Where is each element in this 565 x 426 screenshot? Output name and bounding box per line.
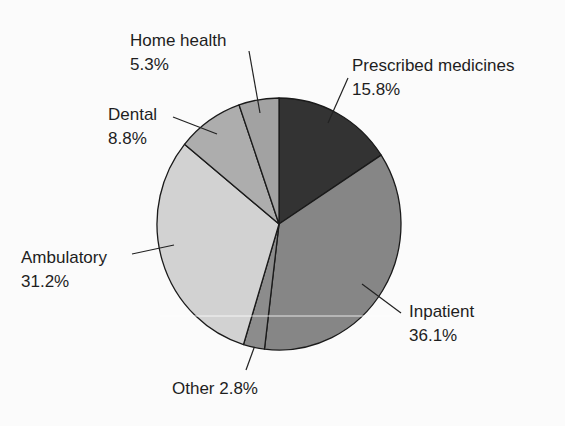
label-ambulatory-name: Ambulatory [21, 248, 107, 267]
label-ambulatory-pct: 31.2% [21, 272, 69, 291]
pie-slices [157, 98, 401, 350]
label-dental-name: Dental [108, 105, 157, 124]
label-home-health-pct: 5.3% [130, 55, 169, 74]
label-prescribed-name: Prescribed medicines [352, 56, 515, 75]
label-dental-pct: 8.8% [108, 129, 147, 148]
label-inpatient-pct: 36.1% [409, 326, 457, 345]
label-home-health-name: Home health [130, 31, 226, 50]
pie-chart: Prescribed medicines 15.8% Inpatient 36.… [0, 0, 565, 426]
leader-other [246, 348, 254, 370]
label-prescribed-pct: 15.8% [352, 80, 400, 99]
label-other: Other 2.8% [172, 379, 258, 398]
label-inpatient-name: Inpatient [409, 302, 474, 321]
